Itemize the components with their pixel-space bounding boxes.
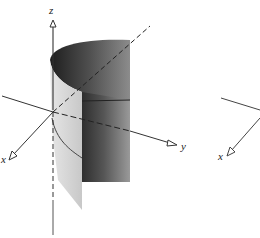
figure-canvas: z x y x (0, 0, 260, 238)
x-axis-label-right: x (217, 150, 223, 162)
3d-surface-diagram: z x y x (0, 0, 260, 238)
y-arrow-icon (167, 140, 177, 146)
z-axis-label: z (48, 4, 54, 16)
y-axis-label: y (180, 140, 186, 152)
z-arrow-icon (50, 20, 56, 27)
x-axis-label: x (0, 153, 6, 165)
parabolic-cylinder-surface (50, 40, 130, 210)
axes-right: x (217, 98, 260, 162)
